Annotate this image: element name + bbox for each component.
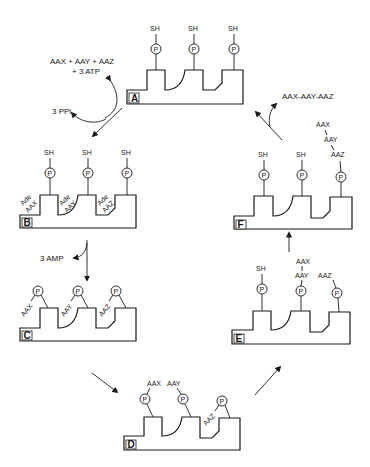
product-label: AAX-AAY-AAZ (282, 92, 334, 101)
stage-label-e: E (236, 333, 243, 344)
diagram-canvas: A P SH P SH P SH AAX + AAY + AAZ + 3 ATP… (0, 0, 370, 467)
p-symbol: P (48, 170, 53, 177)
arrow-d-to-e (255, 367, 280, 395)
aaz-label: AAZ (202, 412, 217, 427)
p-symbol: P (299, 288, 304, 295)
amp-label: 3 AMP (40, 254, 64, 263)
ppi-label: 3 PPi (52, 107, 71, 116)
aaz-label: AAZ (331, 151, 345, 158)
thiol-label: SH (296, 151, 306, 158)
p-symbol: P (125, 170, 130, 177)
stage-b-enzyme: B Ade AAX Ade AAY Ade AAZ P SH P SH P SH (19, 149, 136, 228)
p-symbol: P (262, 172, 267, 179)
thiol-label: SH (121, 149, 131, 156)
p-symbol: P (300, 172, 305, 179)
p-symbol: P (36, 288, 41, 295)
thiol-label: SH (150, 25, 160, 32)
stage-label-c: C (24, 330, 31, 341)
stage-label-d: D (128, 439, 135, 450)
reaction-b-to-c: 3 AMP (40, 240, 87, 280)
p-symbol: P (192, 46, 197, 53)
thiol-label: SH (258, 151, 268, 158)
arrow-c-to-d (92, 373, 117, 392)
p-symbol: P (86, 170, 91, 177)
p-symbol: P (114, 288, 119, 295)
stage-d-enzyme: D P AAX P AAY P AAZ (124, 380, 240, 450)
stage-label-a: A (131, 93, 138, 104)
thiol-label: SH (256, 265, 266, 272)
aay-label: AAY (167, 380, 181, 387)
p-symbol: P (232, 46, 237, 53)
thiol-label: SH (82, 149, 92, 156)
stage-e-enzyme: E P SH P AAY AAX P AAZ (232, 258, 350, 344)
reaction-f-to-a: AAX-AAY-AAZ (256, 92, 334, 140)
aax-label: AAX (316, 121, 330, 128)
aax-label: AAX (147, 380, 161, 387)
stage-a-enzyme: A P SH P SH P SH (127, 25, 243, 104)
p-symbol: P (220, 398, 225, 405)
aaz-label: AAZ (97, 302, 112, 317)
aay-label: AAY (295, 272, 309, 279)
p-symbol: P (181, 396, 186, 403)
p-symbol: P (143, 396, 148, 403)
p-symbol: P (76, 288, 81, 295)
aay-label: AAY (59, 303, 73, 318)
aax-label: AAX (296, 258, 310, 265)
stage-c-enzyme: C P AAX P AAY P AAZ (19, 286, 136, 341)
atp-label: + 3 ATP (72, 67, 100, 76)
reaction-a-to-b: AAX + AAY + AAZ + 3 ATP 3 PPi (50, 57, 122, 136)
thiol-label: SH (228, 25, 238, 32)
aay-label: AAY (324, 136, 338, 143)
substrates-label: AAX + AAY + AAZ (50, 57, 114, 66)
aaz-label: AAZ (318, 272, 332, 279)
aax-label: AAX (19, 302, 34, 317)
thiol-label: SH (188, 25, 198, 32)
p-symbol: P (260, 286, 265, 293)
p-symbol: P (154, 46, 159, 53)
stage-label-f: F (238, 219, 244, 230)
p-symbol: P (339, 174, 344, 181)
thiol-label: SH (44, 149, 54, 156)
stage-f-enzyme: F P SH P SH P AAZ AAY AAX (234, 121, 352, 230)
stage-label-b: B (24, 217, 31, 228)
p-symbol: P (335, 290, 340, 297)
